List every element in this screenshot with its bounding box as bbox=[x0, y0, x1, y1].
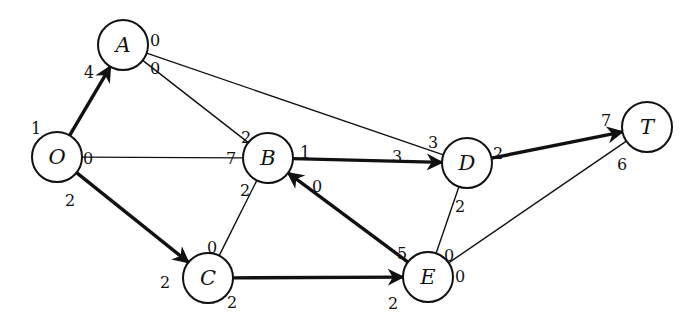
node-label: D bbox=[458, 151, 476, 175]
capacity-label: 1 bbox=[300, 143, 310, 162]
capacity-label: 2 bbox=[65, 191, 75, 210]
edge-B-D bbox=[293, 159, 442, 163]
node-T: T bbox=[622, 102, 672, 152]
edge-A-D bbox=[147, 53, 444, 155]
capacity-label: 4 bbox=[84, 63, 94, 82]
node-O: O bbox=[32, 132, 82, 182]
capacity-label: 7 bbox=[226, 149, 236, 168]
edge-O-C bbox=[77, 173, 189, 263]
node-C: C bbox=[183, 253, 233, 303]
edge-O-B bbox=[82, 157, 243, 158]
node-A: A bbox=[98, 20, 148, 70]
capacity-labels: 140722002320130522202706 bbox=[31, 31, 627, 313]
node-D: D bbox=[442, 138, 492, 188]
edge-D-T bbox=[492, 132, 623, 158]
edge-B-C bbox=[219, 180, 257, 255]
capacity-label: 2 bbox=[160, 273, 170, 292]
capacity-label: 2 bbox=[388, 294, 398, 313]
capacity-label: 0 bbox=[83, 149, 93, 168]
node-label: A bbox=[113, 33, 130, 57]
capacity-label: 0 bbox=[150, 31, 160, 50]
capacity-label: 2 bbox=[227, 293, 237, 312]
edge-E-B bbox=[288, 173, 408, 262]
capacity-label: 2 bbox=[455, 197, 465, 216]
capacity-label: 7 bbox=[601, 111, 611, 130]
node-label: O bbox=[48, 145, 65, 169]
node-label: C bbox=[200, 266, 216, 290]
capacity-label: 3 bbox=[392, 147, 402, 166]
node-label: E bbox=[419, 265, 435, 289]
capacity-label: 6 bbox=[617, 155, 627, 174]
capacity-label: 2 bbox=[240, 181, 250, 200]
capacity-label: 1 bbox=[31, 119, 41, 138]
capacity-label: 2 bbox=[493, 144, 503, 163]
edges bbox=[70, 53, 627, 278]
edge-C-E bbox=[233, 277, 403, 278]
capacity-label: 5 bbox=[397, 244, 407, 263]
capacity-label: 0 bbox=[455, 267, 465, 286]
capacity-label: 3 bbox=[428, 133, 438, 152]
capacity-label: 0 bbox=[312, 177, 322, 196]
node-label: T bbox=[640, 115, 656, 139]
node-label: B bbox=[259, 146, 275, 170]
capacity-label: 0 bbox=[207, 238, 217, 257]
capacity-label: 0 bbox=[444, 246, 454, 265]
capacity-label: 0 bbox=[150, 59, 160, 78]
flow-network-diagram: OABCDET 140722002320130522202706 bbox=[0, 0, 698, 332]
capacity-label: 2 bbox=[241, 128, 251, 147]
